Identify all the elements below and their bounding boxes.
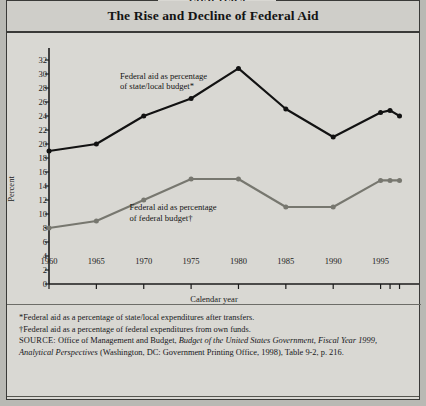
source-text-1: Office of Management and Budget, <box>56 336 179 345</box>
figure-container: CHAPTER 9 The Rise and Decline of Federa… <box>6 0 420 400</box>
footnote-star: *Federal aid as a percentage of state/lo… <box>19 312 409 324</box>
page-title: The Rise and Decline of Federal Aid <box>107 8 318 24</box>
annotation-line-2: of federal budget† <box>130 213 193 223</box>
figure-title-band: The Rise and Decline of Federal Aid <box>7 1 419 33</box>
annotation-line-1: Federal aid as percentage <box>130 202 217 212</box>
bottom-rule <box>7 396 419 397</box>
chart-plot-area: Percent Calendar year 024681012141618202… <box>7 34 421 302</box>
source-text-2: (Washington, DC: Government Printing Off… <box>98 348 344 357</box>
figure-notes: *Federal aid as a percentage of state/lo… <box>7 304 421 400</box>
source-label: SOURCE: <box>19 336 56 345</box>
state-local-series-label: Federal aid as percentage of state/local… <box>120 71 207 92</box>
annotation-line-1: Federal aid as percentage <box>120 71 207 81</box>
source-line: SOURCE: Office of Management and Budget,… <box>19 335 409 358</box>
annotation-line-2: of state/local budget* <box>120 81 194 91</box>
federal-budget-series-label: Federal aid as percentage of federal bud… <box>130 202 217 223</box>
chart-svg <box>7 34 421 302</box>
footnote-dagger: †Federal aid as a percentage of federal … <box>19 324 409 336</box>
